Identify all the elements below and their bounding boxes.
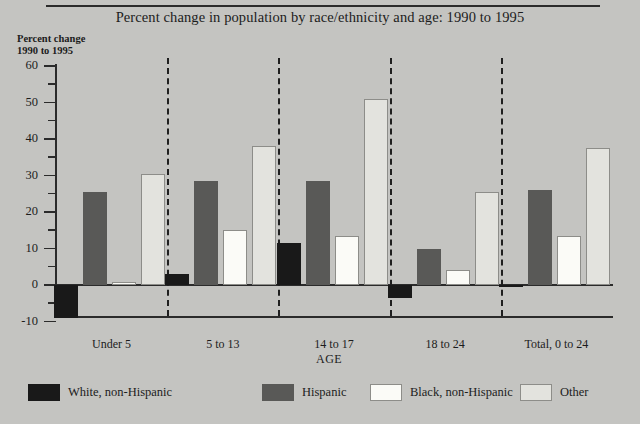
y-tick-label: -10 bbox=[2, 315, 38, 327]
bar bbox=[141, 174, 165, 285]
bar bbox=[364, 99, 388, 285]
group-separator bbox=[501, 58, 503, 316]
legend-label: Hispanic bbox=[302, 385, 346, 400]
chart-legend: White, non-HispanicHispanicBlack, non-Hi… bbox=[0, 382, 640, 408]
y-axis-caption: Percent change 1990 to 1995 bbox=[17, 33, 85, 56]
y-tick-label: 10 bbox=[2, 242, 38, 254]
bar bbox=[528, 190, 552, 285]
y-axis-caption-line-1: Percent change bbox=[17, 33, 85, 45]
header-rule bbox=[46, 5, 600, 7]
y-axis-caption-line-2: 1990 to 1995 bbox=[17, 45, 85, 57]
bar bbox=[194, 181, 218, 285]
y-tick-label: 30 bbox=[2, 169, 38, 181]
chart-title: Percent change in population by race/eth… bbox=[0, 9, 640, 26]
bar bbox=[252, 146, 276, 285]
bar bbox=[112, 282, 136, 285]
legend-swatch bbox=[520, 384, 552, 401]
bar bbox=[388, 285, 412, 298]
y-tick-major bbox=[44, 321, 56, 323]
group-separator bbox=[390, 58, 392, 316]
legend-label: White, non-Hispanic bbox=[68, 385, 172, 400]
bar bbox=[475, 192, 499, 285]
bar bbox=[306, 181, 330, 285]
y-tick-major bbox=[44, 175, 56, 177]
y-tick-minor bbox=[48, 229, 56, 231]
x-category-label: 5 to 13 bbox=[206, 337, 239, 352]
y-tick-major bbox=[44, 102, 56, 104]
bar bbox=[223, 230, 247, 285]
bar bbox=[586, 148, 610, 285]
bar bbox=[557, 236, 581, 285]
y-tick-minor bbox=[48, 83, 56, 85]
y-tick-label: 40 bbox=[2, 132, 38, 144]
legend-label: Black, non-Hispanic bbox=[410, 385, 513, 400]
y-tick-minor bbox=[48, 156, 56, 158]
bar bbox=[335, 236, 359, 285]
y-tick-minor bbox=[48, 193, 56, 195]
y-tick-major bbox=[44, 138, 56, 140]
y-tick-minor bbox=[48, 120, 56, 122]
y-tick-minor bbox=[48, 266, 56, 268]
legend-swatch bbox=[262, 384, 294, 401]
x-category-label: Under 5 bbox=[92, 337, 131, 352]
bar bbox=[417, 249, 441, 286]
bar bbox=[54, 285, 78, 318]
x-category-label: 18 to 24 bbox=[426, 337, 465, 352]
bar bbox=[499, 285, 523, 287]
y-tick-label: 20 bbox=[2, 205, 38, 217]
x-axis-title: AGE bbox=[316, 352, 342, 367]
legend-swatch bbox=[28, 384, 60, 401]
chart-figure: Percent change in population by race/eth… bbox=[0, 0, 640, 424]
bar bbox=[83, 192, 107, 285]
y-tick-major bbox=[44, 65, 56, 67]
x-axis-line bbox=[55, 316, 613, 318]
legend-label: Other bbox=[560, 385, 588, 400]
y-tick-major bbox=[44, 211, 56, 213]
bar bbox=[165, 274, 189, 285]
x-category-label: Total, 0 to 24 bbox=[524, 337, 588, 352]
bar bbox=[277, 243, 301, 285]
bar bbox=[446, 270, 470, 285]
legend-swatch bbox=[370, 384, 402, 401]
x-category-label: 14 to 17 bbox=[314, 337, 353, 352]
y-tick-major bbox=[44, 248, 56, 250]
y-tick-label: 0 bbox=[2, 278, 38, 290]
y-tick-label: 50 bbox=[2, 96, 38, 108]
y-tick-label: 60 bbox=[2, 59, 38, 71]
